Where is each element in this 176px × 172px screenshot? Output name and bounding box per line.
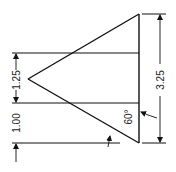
angle-label: 60°: [123, 109, 134, 124]
technical-drawing: 1.25 1.00 3.25 60°: [0, 0, 176, 172]
dimension-label-total: 3.25: [155, 70, 166, 90]
horizontal-lines: [12, 53, 139, 143]
dimension-label-lower: 1.00: [11, 113, 22, 133]
dimension-label-upper: 1.25: [11, 70, 22, 90]
